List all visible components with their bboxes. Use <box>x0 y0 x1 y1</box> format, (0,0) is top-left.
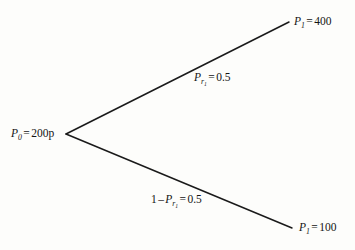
branch-down-probability-label: 1–Pr1=0.5 <box>151 194 202 209</box>
outcome-up-symbol: P <box>294 15 301 27</box>
outcome-up-label: P1=400 <box>294 16 331 29</box>
branch-up-probability-equals: = <box>207 71 216 83</box>
outcome-down-symbol: P <box>299 221 306 233</box>
branch-line-up <box>66 22 289 134</box>
outcome-down-label: P1=100 <box>299 222 336 235</box>
branch-up-probability-value: 0.5 <box>216 71 230 83</box>
root-symbol: P <box>11 127 18 139</box>
branch-up-probability-label: Pr1=0.5 <box>194 72 231 87</box>
branch-down-probability-minus: – <box>157 193 166 205</box>
root-equals: = <box>22 127 31 139</box>
probability-tree-diagram: P0=200p Pr1=0.5 P1=400 1–Pr1=0.5 P1=100 <box>0 0 355 250</box>
branch-down-probability-equals: = <box>178 193 187 205</box>
outcome-down-value: 100 <box>319 221 336 233</box>
branch-line-down <box>66 134 292 228</box>
branch-up-probability-symbol: P <box>194 71 201 83</box>
branch-down-probability-value: 0.5 <box>187 193 201 205</box>
branch-up-probability-subscript: r1 <box>201 77 207 86</box>
root-node-label: P0=200p <box>11 128 54 141</box>
root-value: 200p <box>31 127 54 139</box>
tree-branches-svg <box>0 0 355 250</box>
outcome-up-value: 400 <box>314 15 331 27</box>
branch-down-probability-prefix: 1 <box>151 193 157 205</box>
outcome-up-equals: = <box>305 15 314 27</box>
outcome-down-equals: = <box>310 221 319 233</box>
